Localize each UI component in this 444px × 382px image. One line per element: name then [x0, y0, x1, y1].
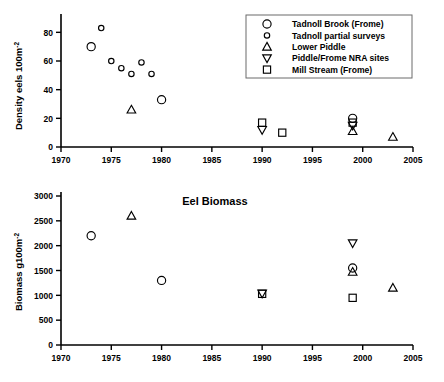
y-axis-title-main: Density eels 100m — [13, 48, 24, 130]
y-axis-tick-label: 2500 — [34, 216, 53, 226]
y-axis-tick-label: 3000 — [34, 191, 53, 201]
legend-item-label: Piddle/Frome NRA sites — [292, 53, 389, 63]
x-axis-tick-label: 1970 — [52, 155, 71, 165]
x-axis-tick-label: 1980 — [152, 155, 171, 165]
x-axis-tick-label: 2000 — [353, 155, 372, 165]
x-axis-tick-label: 2000 — [353, 353, 372, 363]
x-axis-tick-label: 1975 — [102, 155, 121, 165]
series-mill-stream-frome — [259, 119, 357, 136]
y-axis-title: Density eels 100m-2 — [13, 42, 25, 131]
figure-container: 1970197519801985199019952000200502040608… — [0, 0, 444, 382]
data-point-circle-large — [349, 114, 357, 122]
y-axis-tick-label: 0 — [48, 142, 53, 152]
y-axis-tick-label: 500 — [39, 315, 53, 325]
y-axis-tick-label: 1000 — [34, 291, 53, 301]
x-axis-tick-label: 1985 — [202, 353, 221, 363]
x-axis-tick-label: 1990 — [253, 353, 272, 363]
data-point-square — [259, 119, 266, 126]
y-axis-title: Biomass g100m-2 — [13, 233, 25, 312]
legend-item-label: Lower Piddle — [292, 42, 346, 52]
data-point-circle-small — [119, 65, 124, 70]
biomass-plot: 1970197519801985199019952000200505001000… — [13, 191, 423, 363]
data-point-circle-large — [87, 232, 95, 240]
series-lower-piddle — [127, 211, 397, 291]
data-point-triangle-down — [258, 290, 267, 298]
chart-title: Eel Biomass — [182, 195, 247, 207]
y-axis-tick-label: 60 — [44, 56, 54, 66]
data-point-triangle-up — [389, 283, 398, 291]
data-point-triangle-up — [263, 42, 272, 50]
x-axis-tick-label: 1980 — [152, 353, 171, 363]
x-axis-tick-label: 1975 — [102, 353, 121, 363]
series-tadnoll-partial-surveys — [99, 25, 155, 76]
y-axis-tick-label: 40 — [44, 85, 54, 95]
series-piddle-frome-nra-sites — [258, 122, 357, 134]
eel-density-biomass-figure: 1970197519801985199019952000200502040608… — [0, 0, 444, 382]
y-axis-title-superscript: -2 — [13, 42, 20, 48]
x-axis-tick-label: 1985 — [202, 155, 221, 165]
data-point-circle-small — [139, 60, 144, 65]
x-axis-tick-label: 1970 — [52, 353, 71, 363]
y-axis-tick-label: 0 — [48, 340, 53, 350]
data-point-circle-large — [157, 276, 165, 284]
data-point-square — [263, 66, 270, 73]
data-point-circle-large — [157, 96, 165, 104]
legend-item-label: Mill Stream (Frome) — [292, 65, 372, 75]
data-point-circle-small — [264, 33, 269, 38]
data-point-circle-small — [129, 71, 134, 76]
data-point-circle-large — [87, 43, 95, 51]
y-axis-tick-label: 20 — [44, 114, 54, 124]
legend-item-label: Tadnoll Brook (Frome) — [292, 19, 384, 29]
y-axis-title-main: Biomass g100m — [13, 239, 24, 311]
legend-item-label: Tadnoll partial surveys — [292, 31, 385, 41]
x-axis-tick-label: 2005 — [404, 155, 423, 165]
series-mill-stream-frome — [259, 290, 357, 301]
series-piddle-frome-nra-sites — [258, 240, 357, 298]
y-axis-tick-label: 2000 — [34, 241, 53, 251]
data-point-triangle-up — [389, 133, 398, 141]
x-axis-tick-label: 1990 — [253, 155, 272, 165]
data-point-circle-small — [99, 25, 104, 30]
y-axis-tick-label: 1500 — [34, 266, 53, 276]
legend: Tadnoll Brook (Frome)Tadnoll partial sur… — [246, 15, 412, 78]
y-axis-tick-label: 80 — [44, 28, 54, 38]
x-axis-tick-label: 2005 — [404, 353, 423, 363]
data-point-triangle-down — [348, 240, 357, 248]
data-point-circle-small — [109, 58, 114, 63]
data-point-square — [349, 294, 356, 301]
data-point-square — [279, 129, 286, 136]
data-point-triangle-down — [263, 55, 272, 63]
data-point-triangle-up — [127, 105, 136, 113]
series-tadnoll-brook-frome — [87, 232, 357, 285]
x-axis-tick-label: 1995 — [303, 353, 322, 363]
data-point-triangle-down — [258, 127, 267, 135]
y-axis-title-superscript: -2 — [13, 233, 20, 239]
data-point-circle-large — [263, 20, 271, 28]
data-point-triangle-up — [127, 211, 136, 219]
x-axis-tick-label: 1995 — [303, 155, 322, 165]
data-point-circle-small — [149, 71, 154, 76]
